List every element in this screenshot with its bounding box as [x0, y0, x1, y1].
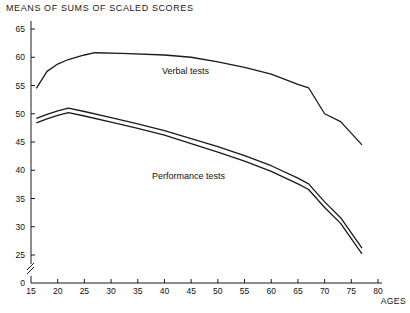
series-label-performance: Performance tests — [152, 171, 225, 181]
svg-text:25: 25 — [80, 286, 90, 296]
svg-text:40: 40 — [160, 286, 170, 296]
x-axis-title: AGES — [381, 296, 406, 306]
svg-text:65: 65 — [16, 24, 26, 34]
svg-text:35: 35 — [133, 286, 143, 296]
svg-text:35: 35 — [16, 194, 26, 204]
svg-text:30: 30 — [16, 222, 26, 232]
chart-container: MEANS OF SUMS OF SCALED SCORES 025303540… — [0, 0, 410, 313]
svg-text:40: 40 — [16, 165, 26, 175]
svg-text:45: 45 — [16, 137, 26, 147]
svg-text:50: 50 — [16, 109, 26, 119]
chart-plot-area: 0253035404550556065152025303540455055606… — [0, 0, 410, 313]
svg-text:25: 25 — [16, 250, 26, 260]
svg-text:50: 50 — [213, 286, 223, 296]
svg-text:75: 75 — [347, 286, 357, 296]
svg-text:60: 60 — [266, 286, 276, 296]
series-label-verbal: Verbal tests — [162, 66, 209, 76]
svg-text:55: 55 — [240, 286, 250, 296]
svg-text:30: 30 — [106, 286, 116, 296]
svg-text:60: 60 — [16, 52, 26, 62]
svg-text:65: 65 — [293, 286, 303, 296]
svg-text:70: 70 — [320, 286, 330, 296]
svg-text:15: 15 — [26, 286, 36, 296]
svg-text:20: 20 — [53, 286, 63, 296]
svg-text:0: 0 — [20, 278, 25, 288]
svg-text:80: 80 — [373, 286, 383, 296]
svg-text:55: 55 — [16, 81, 26, 91]
svg-text:45: 45 — [186, 286, 196, 296]
